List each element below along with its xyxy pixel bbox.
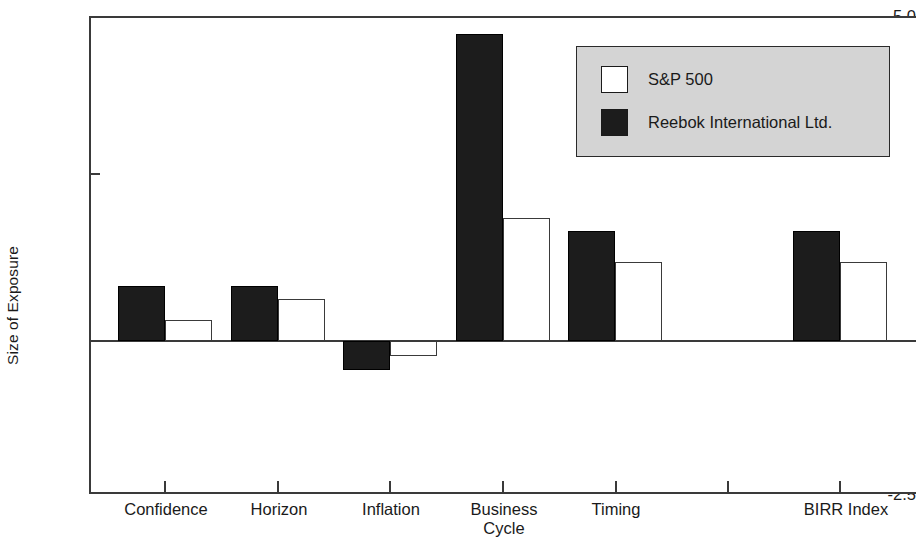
legend-swatch-white-icon	[601, 66, 628, 93]
bar-chart: Size of Exposure 5.0 2.5 0.0 -2.5 Confid…	[0, 0, 916, 559]
y-axis-title-text: Size of Exposure	[4, 246, 22, 365]
bar-inflation-sp500	[390, 341, 437, 356]
x-label-birr-index: BIRR Index	[783, 500, 909, 519]
bar-birr-index-reebok	[793, 231, 840, 341]
bar-horizon-sp500	[278, 299, 325, 341]
legend-swatch-black-icon	[601, 109, 628, 136]
bar-timing-reebok	[568, 231, 615, 341]
x-label-horizon: Horizon	[221, 500, 337, 519]
x-tick-mark-7	[839, 481, 841, 492]
bar-horizon-reebok	[231, 286, 278, 341]
legend-item-sp500: S&P 500	[601, 66, 713, 93]
x-tick-mark-3	[389, 481, 391, 492]
legend-item-reebok: Reebok International Ltd.	[601, 109, 832, 136]
bar-confidence-sp500	[165, 320, 212, 341]
bar-birr-index-sp500	[840, 262, 887, 341]
x-label-confidence: Confidence	[108, 500, 224, 519]
bar-confidence-reebok	[118, 286, 165, 341]
bar-timing-sp500	[615, 262, 662, 341]
bar-business-cycle-sp500	[503, 218, 550, 341]
legend-label-sp500: S&P 500	[648, 70, 713, 89]
bar-inflation-reebok	[343, 341, 390, 370]
x-tick-mark-5	[615, 481, 617, 492]
x-tick-mark-4	[502, 481, 504, 492]
x-label-inflation: Inflation	[333, 500, 449, 519]
x-label-business-cycle: Business Cycle	[446, 500, 562, 538]
x-tick-mark-2	[277, 481, 279, 492]
x-label-timing: Timing	[558, 500, 674, 519]
x-tick-mark-1	[164, 481, 166, 492]
y-axis-title: Size of Exposure	[0, 0, 26, 559]
legend: S&P 500 Reebok International Ltd.	[576, 46, 890, 157]
y-tick-mark-2-5	[89, 173, 100, 175]
x-tick-mark-6	[727, 481, 729, 492]
bar-business-cycle-reebok	[456, 34, 503, 341]
legend-label-reebok: Reebok International Ltd.	[648, 113, 832, 132]
